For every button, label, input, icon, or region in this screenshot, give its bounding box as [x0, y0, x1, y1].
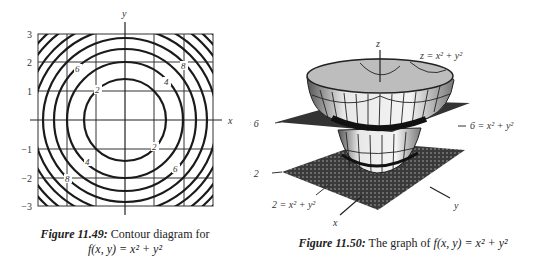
y-axis [430, 187, 450, 198]
axes [30, 22, 222, 215]
contour-label-8b: 8 [65, 174, 70, 184]
contour-label-4b: 4 [85, 157, 90, 167]
curve-6-label: 6 = x² + y² [470, 120, 514, 131]
figure-id: Figure 11.50: [298, 236, 365, 250]
svg-text:−2: −2 [61, 214, 72, 215]
surface-equation-label: z = x² + y² [419, 50, 463, 61]
svg-text:2: 2 [27, 57, 32, 68]
figure-11-50-caption: Figure 11.50: The graph of f(x, y) = x² … [268, 236, 537, 251]
svg-text:3: 3 [209, 214, 214, 215]
svg-text:−3: −3 [32, 214, 43, 215]
svg-text:−1: −1 [21, 144, 32, 155]
svg-text:2: 2 [181, 214, 186, 215]
contour-diagram: 2 2 4 4 6 6 8 8 y x 3 2 1 −1 −2 −3 −3 −2… [0, 0, 250, 215]
figure-id: Figure 11.49: [41, 227, 108, 241]
svg-text:1: 1 [27, 86, 32, 97]
axis-x-label: x [332, 217, 338, 228]
plane-z6-label: z = 6 [250, 118, 259, 129]
svg-text:1: 1 [152, 214, 157, 215]
contour-label-6: 6 [75, 64, 80, 74]
contour-label-2: 2 [95, 85, 100, 95]
caption-text: The graph of [369, 236, 431, 250]
plane-z2-label: z = 2 [250, 168, 259, 179]
axis-y-label: y [453, 200, 459, 211]
caption-formula: f(x, y) = x² + y² [434, 236, 508, 250]
svg-text:−2: −2 [21, 173, 32, 184]
caption-formula: f(x, y) = x² + y² [88, 242, 162, 256]
axis-z-label: z [375, 38, 380, 49]
axis-y-label: y [121, 8, 127, 19]
x-tick-labels: −3 −2 −1 1 2 3 [32, 214, 214, 215]
contour-label-4: 4 [164, 77, 169, 87]
contour-label-8: 8 [181, 61, 186, 71]
svg-text:3: 3 [27, 29, 32, 40]
figure-11-49-caption: Figure 11.49: Contour diagram for f(x, y… [20, 227, 230, 257]
contour-label-6b: 6 [173, 164, 178, 174]
svg-text:−1: −1 [90, 214, 101, 215]
curve-2-label: 2 = x² + y² [272, 199, 316, 210]
surface-plot: z z = x² + y² z = 6 6 = x² + y² z = 2 2 … [250, 0, 537, 240]
svg-text:−3: −3 [21, 201, 32, 212]
caption-text: Contour diagram for [111, 227, 210, 241]
axis-x-label: x [227, 115, 233, 126]
contour-label-2b: 2 [152, 142, 157, 152]
